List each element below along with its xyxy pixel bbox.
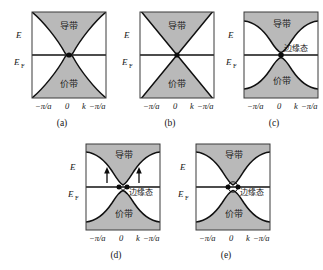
panel-a-tick-zero: 0	[65, 101, 70, 111]
panel-d-edge-state-dot-left	[117, 185, 122, 190]
panel-c-momentum-label: k	[294, 101, 298, 111]
panel-d-tick-right: −π/a	[143, 233, 160, 243]
panel-a-valence-label: 价带	[60, 79, 78, 89]
panel-c-fermi-label: E	[226, 57, 232, 67]
panel-e-valence-label: 价带	[225, 209, 243, 219]
panel-d-tick-left: −π/a	[89, 233, 106, 243]
panel-c: E E F 导带 价带 边缘	[226, 8, 322, 116]
panel-e-tick-left: −π/a	[199, 233, 216, 243]
panel-c-caption: (c)	[226, 118, 322, 128]
panel-b: E E F 导带 价带 −π/a	[122, 8, 218, 116]
panel-b-dirac-point	[174, 52, 179, 57]
panel-b-caption: (b)	[122, 118, 218, 128]
panel-d-valence-label: 价带	[115, 209, 133, 219]
panel-d-conduction-label: 导带	[115, 150, 133, 160]
panel-a-touch-point	[66, 52, 71, 57]
panel-c-tick-left: −π/a	[247, 101, 264, 111]
panel-e-caption: (e)	[178, 250, 274, 260]
panel-d-momentum-label: k	[136, 233, 140, 243]
panel-d-tick-zero: 0	[119, 233, 124, 243]
panel-c-tick-right: −π/a	[301, 101, 318, 111]
panel-c-tick-zero: 0	[277, 101, 282, 111]
panel-b-energy-label: E	[123, 30, 130, 40]
panel-d-energy-label: E	[69, 162, 76, 172]
panel-b-fermi-subscript: F	[129, 62, 133, 69]
panel-a-conduction-label: 导带	[60, 21, 78, 31]
panel-e-momentum-label: k	[246, 233, 250, 243]
panel-e-fermi-label: E	[178, 189, 184, 199]
panel-d-fermi-label: E	[68, 189, 74, 199]
panel-c-edge-state-dot	[278, 52, 284, 58]
panel-d-edge-state-label: 边缘态	[129, 187, 153, 197]
panel-b-valence-label: 价带	[168, 79, 186, 89]
panel-b-tick-right: −π/a	[197, 101, 214, 111]
panel-b-conduction-label: 导带	[168, 21, 186, 31]
panel-c-conduction-label: 导带	[273, 19, 291, 29]
panel-a-fermi-subscript: F	[21, 62, 25, 69]
panel-b-tick-zero: 0	[173, 101, 178, 111]
panel-d-caption: (d)	[68, 250, 164, 260]
panel-a: E E F	[14, 8, 110, 116]
panel-a-fermi-label: E	[14, 57, 20, 67]
band-structure-figure: E E F	[0, 0, 323, 270]
panel-c-edge-state-label: 边缘态	[284, 43, 308, 53]
panel-b-momentum-label: k	[190, 101, 194, 111]
panel-a-tick-left: −π/a	[35, 101, 52, 111]
panel-b-tick-left: −π/a	[143, 101, 160, 111]
panel-e-edge-state-label: 边缘态	[240, 187, 264, 197]
panel-a-momentum-label: k	[82, 101, 86, 111]
panel-d-fermi-subscript: F	[75, 194, 79, 201]
panel-d: E E F	[68, 140, 164, 250]
panel-b-fermi-label: E	[122, 57, 128, 67]
panel-e: E E F 导带 价带	[178, 140, 274, 250]
panel-e-tick-zero: 0	[229, 233, 234, 243]
panel-c-valence-label: 价带	[273, 76, 291, 86]
panel-e-fermi-subscript: F	[185, 194, 189, 201]
panel-a-tick-right: −π/a	[89, 101, 106, 111]
panel-a-energy-label: E	[15, 30, 22, 40]
panel-e-energy-label: E	[179, 162, 186, 172]
panel-c-energy-label: E	[227, 30, 234, 40]
panel-e-conduction-label: 导带	[225, 150, 243, 160]
panel-a-caption: (a)	[14, 118, 110, 128]
panel-e-tick-right: −π/a	[253, 233, 270, 243]
panel-c-fermi-subscript: F	[233, 62, 237, 69]
panel-e-edge-state-dot-left	[226, 185, 231, 190]
